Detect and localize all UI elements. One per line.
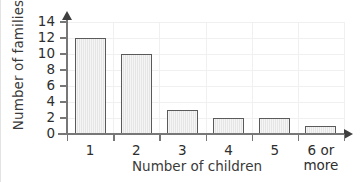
y-tick-label: 8 [21,63,55,77]
y-tick-mark [60,21,67,22]
bar [167,110,198,134]
x-axis-line [58,133,345,135]
y-tick-mark [60,37,67,38]
bar [259,118,290,134]
y-axis-arrow-icon [62,11,72,20]
x-tick-mark [344,134,345,141]
gridline-vertical [298,22,299,134]
x-tick-label-line: more [294,158,348,173]
bar [121,54,152,134]
y-tick-mark [60,117,67,118]
y-tick-label: 12 [21,31,55,45]
y-tick-mark [60,85,67,86]
bar-chart-figure: Number of families 02468101214 123456 or… [0,0,363,182]
bar [75,38,106,134]
x-tick-mark [113,134,114,141]
bar [213,118,244,134]
y-tick-label: 4 [21,95,55,109]
x-tick-mark [252,134,253,141]
gridline-vertical [344,22,345,134]
y-tick-mark [60,53,67,54]
gridline-vertical [113,22,114,134]
x-axis-title: Number of children [111,158,283,174]
y-tick-mark [60,101,67,102]
y-tick-label: 6 [21,79,55,93]
y-tick-label: 14 [21,15,55,29]
x-tick-label: 6 ormore [294,143,348,173]
gridline-vertical [252,22,253,134]
y-tick-label: 0 [21,127,55,141]
y-tick-label: 10 [21,47,55,61]
gridline-vertical [159,22,160,134]
x-tick-mark [206,134,207,141]
x-tick-label-line: 6 or [294,143,348,158]
x-tick-mark [159,134,160,141]
gridline-vertical [206,22,207,134]
y-tick-mark [60,133,67,134]
x-tick-mark [67,134,68,141]
y-tick-mark [60,69,67,70]
plot-area [67,22,344,134]
x-tick-mark [298,134,299,141]
y-tick-label: 2 [21,111,55,125]
